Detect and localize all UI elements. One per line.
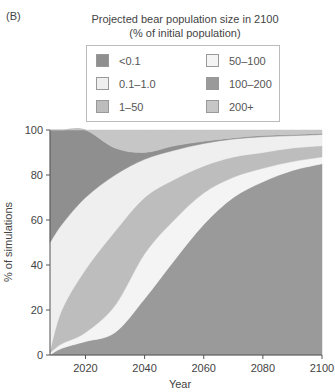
x-axis-title: Year — [169, 378, 192, 390]
stacked-area-chart: 020406080100 20202040206020802100 Year %… — [0, 0, 335, 392]
y-tick-label: 100 — [25, 124, 43, 136]
y-tick-label: 80 — [31, 169, 43, 181]
x-tick-label: 2040 — [132, 362, 156, 374]
x-tick-label: 2060 — [191, 362, 215, 374]
x-ticks: 20202040206020802100 — [73, 355, 334, 374]
x-tick-label: 2100 — [310, 362, 334, 374]
y-tick-label: 40 — [31, 259, 43, 271]
y-tick-label: 60 — [31, 214, 43, 226]
y-tick-label: 0 — [37, 349, 43, 361]
y-ticks: 020406080100 — [25, 124, 50, 361]
x-tick-label: 2020 — [73, 362, 97, 374]
y-tick-label: 20 — [31, 304, 43, 316]
plot-areas — [50, 129, 322, 355]
y-axis-title: % of simulations — [2, 201, 14, 282]
x-tick-label: 2080 — [251, 362, 275, 374]
